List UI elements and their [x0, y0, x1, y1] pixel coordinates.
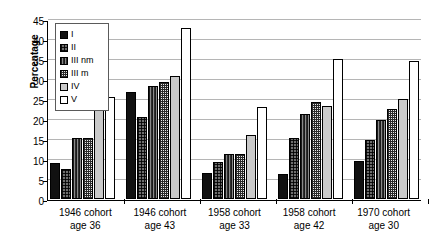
x-axis-category-label: 1958 cohortage 33 [197, 206, 272, 232]
bar-v [333, 59, 343, 199]
x-axis-category-line: 1970 cohort [346, 206, 421, 219]
y-axis-tick-label: 45 [22, 16, 44, 27]
legend-swatch-icon [60, 96, 68, 104]
bar-group [125, 21, 201, 199]
legend-item-v[interactable]: V [60, 93, 105, 106]
bar-iv [170, 76, 180, 199]
chart-legend: IIIIII nmIII mIVV [55, 23, 109, 111]
bar-iii-m [387, 109, 397, 199]
bar-iii-m [83, 138, 93, 199]
legend-item-ii[interactable]: II [60, 41, 105, 54]
bar-iii-m [235, 154, 245, 199]
legend-item-iii-m[interactable]: III m [60, 67, 105, 80]
bar-iii-nm [148, 86, 158, 199]
bar-chart: Percentage 454035302520151050 IIIIII nmI… [0, 0, 436, 249]
bar-v [181, 28, 191, 199]
y-axis-tick-label: 40 [22, 36, 44, 47]
gridline [48, 19, 421, 20]
x-axis-category-line: age 42 [272, 219, 347, 232]
y-axis-tick-label: 15 [22, 136, 44, 147]
y-axis-tick-label: 5 [22, 176, 44, 187]
x-axis-category-label: 1946 cohortage 36 [48, 206, 123, 232]
bar-ii [137, 117, 147, 199]
x-axis-category-line: age 43 [123, 219, 198, 232]
bar-iv [398, 99, 408, 199]
bar-i [354, 161, 364, 199]
bar-group [201, 21, 277, 199]
y-axis-tick-mark [43, 201, 47, 202]
legend-item-label: III nm [71, 56, 94, 65]
bar-i [202, 173, 212, 199]
bar-iv [94, 107, 104, 199]
bar-i [278, 174, 288, 199]
legend-swatch-icon [60, 57, 68, 65]
bar-group [353, 21, 429, 199]
legend-item-label: V [71, 95, 77, 104]
legend-swatch-icon [60, 83, 68, 91]
x-axis-category-label: 1970 cohortage 30 [346, 206, 421, 232]
bar-i [50, 163, 60, 199]
x-axis-labels: 1946 cohortage 361946 cohortage 431958 c… [48, 206, 421, 232]
legend-item-label: I [71, 30, 74, 39]
x-axis-category-line: 1958 cohort [272, 206, 347, 219]
bar-iii-nm [72, 138, 82, 199]
bar-iii-nm [224, 154, 234, 199]
bar-ii [61, 169, 71, 199]
bar-iii-nm [376, 120, 386, 199]
x-axis-category-line: 1958 cohort [197, 206, 272, 219]
x-axis-category-line: age 30 [346, 219, 421, 232]
bar-ii [289, 138, 299, 199]
bar-ii [213, 162, 223, 199]
y-axis-tick-label: 35 [22, 56, 44, 67]
x-axis-category-label: 1958 cohortage 42 [272, 206, 347, 232]
bar-v [105, 97, 115, 199]
bar-v [409, 61, 419, 199]
x-axis-category-line: age 36 [48, 219, 123, 232]
legend-item-label: II [71, 43, 76, 52]
bar-iii-nm [300, 114, 310, 199]
bar-iii-m [311, 102, 321, 199]
x-axis-category-line: 1946 cohort [48, 206, 123, 219]
y-axis-tick-label: 20 [22, 116, 44, 127]
x-axis-category-line: 1946 cohort [123, 206, 198, 219]
legend-swatch-icon [60, 44, 68, 52]
legend-item-label: IV [71, 82, 80, 91]
bar-group [277, 21, 353, 199]
y-axis-tick-label: 30 [22, 76, 44, 87]
bar-iv [246, 135, 256, 199]
y-axis-tick-label: 25 [22, 96, 44, 107]
bar-v [257, 107, 267, 199]
legend-item-iv[interactable]: IV [60, 80, 105, 93]
legend-item-i[interactable]: I [60, 28, 105, 41]
bar-ii [365, 140, 375, 199]
bar-iv [322, 106, 332, 199]
x-axis-category-label: 1946 cohortage 43 [123, 206, 198, 232]
y-axis-tick-label: 0 [22, 196, 44, 207]
x-axis-category-line: age 33 [197, 219, 272, 232]
y-axis-tick-label: 10 [22, 156, 44, 167]
bar-iii-m [159, 82, 169, 199]
bar-i [126, 92, 136, 199]
legend-item-iii-nm[interactable]: III nm [60, 54, 105, 67]
legend-swatch-icon [60, 31, 68, 39]
legend-swatch-icon [60, 70, 68, 78]
legend-item-label: III m [71, 69, 89, 78]
